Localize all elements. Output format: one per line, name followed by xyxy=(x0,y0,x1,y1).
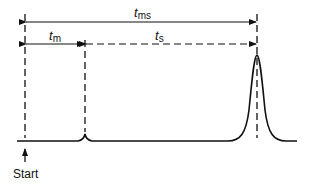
tms-label: tms xyxy=(134,5,151,21)
ts-label: ts xyxy=(155,28,164,44)
tm-label: tm xyxy=(49,28,61,44)
start-label: Start xyxy=(13,167,39,181)
chromatogram-timing-diagram: tms tm ts Start xyxy=(0,0,313,187)
signal-trace xyxy=(17,55,297,141)
